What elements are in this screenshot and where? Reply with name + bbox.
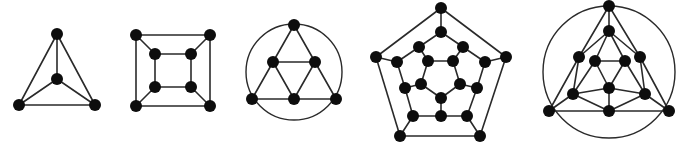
- graph-vertex: [471, 82, 483, 94]
- graph-vertex: [435, 92, 447, 104]
- graph-vertex: [422, 55, 434, 67]
- graph-edge: [315, 62, 336, 99]
- graph-vertex: [394, 130, 406, 142]
- graph-icosahedron: [543, 0, 675, 138]
- graph-vertex: [130, 100, 142, 112]
- graph-vertex: [149, 81, 161, 93]
- graph-vertex: [589, 55, 601, 67]
- graph-vertex: [435, 110, 447, 122]
- graph-vertex: [246, 93, 258, 105]
- graph-edge: [57, 34, 95, 105]
- graph-vertex: [603, 105, 615, 117]
- graph-vertex: [288, 93, 300, 105]
- graph-edge: [376, 8, 441, 57]
- graph-vertex: [573, 51, 585, 63]
- graph-edge: [57, 79, 95, 105]
- graph-vertex: [435, 26, 447, 38]
- graph-edge: [273, 25, 294, 62]
- graph-vertex: [415, 78, 427, 90]
- graph-vertex: [130, 29, 142, 41]
- graph-vertex: [567, 88, 579, 100]
- graph-edge: [252, 62, 273, 99]
- graph-vertex: [407, 110, 419, 122]
- graph-vertex: [399, 82, 411, 94]
- circumscribed-circle: [246, 24, 342, 120]
- graph-vertex: [330, 93, 342, 105]
- graph-edge: [609, 31, 640, 57]
- graph-edge: [19, 34, 57, 105]
- graph-vertex: [185, 81, 197, 93]
- graph-edge: [294, 25, 315, 62]
- graph-vertex: [89, 99, 101, 111]
- graph-vertex: [663, 105, 675, 117]
- graph-vertex: [204, 100, 216, 112]
- graph-vertex: [309, 56, 321, 68]
- graph-vertex: [461, 110, 473, 122]
- graph-octahedron: [246, 19, 342, 120]
- graph-vertex: [457, 41, 469, 53]
- graph-vertex: [204, 29, 216, 41]
- graph-vertex: [267, 56, 279, 68]
- graph-tetrahedron: [13, 28, 101, 111]
- graph-vertex: [603, 0, 615, 12]
- graph-vertex: [500, 51, 512, 63]
- graph-vertex: [51, 73, 63, 85]
- graph-vertex: [13, 99, 25, 111]
- graph-vertex: [454, 78, 466, 90]
- graph-vertex: [474, 130, 486, 142]
- graph-vertex: [435, 2, 447, 14]
- graph-edge: [480, 57, 506, 136]
- graph-vertex: [288, 19, 300, 31]
- graph-vertex: [391, 56, 403, 68]
- graph-vertex: [603, 25, 615, 37]
- graph-dodecahedron: [370, 2, 512, 142]
- graph-vertex: [370, 51, 382, 63]
- graph-vertex: [413, 41, 425, 53]
- graph-vertex: [185, 48, 197, 60]
- platonic-graphs-figure: [0, 0, 680, 154]
- graph-edge: [273, 62, 294, 99]
- graph-vertex: [51, 28, 63, 40]
- graph-vertex: [639, 88, 651, 100]
- graph-vertex: [634, 51, 646, 63]
- graph-vertex: [603, 82, 615, 94]
- graph-edge: [294, 62, 315, 99]
- graph-vertex: [543, 105, 555, 117]
- graph-vertex: [149, 48, 161, 60]
- graph-vertex: [479, 56, 491, 68]
- graph-vertex: [447, 55, 459, 67]
- graph-edge: [441, 8, 506, 57]
- graph-cube: [130, 29, 216, 112]
- graph-edge: [376, 57, 400, 136]
- graph-edge: [19, 79, 57, 105]
- graph-vertex: [619, 55, 631, 67]
